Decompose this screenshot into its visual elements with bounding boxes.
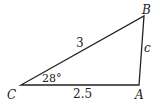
vertex-label-a: A [134,88,144,102]
side-label-cb: 3 [76,36,84,50]
side-label-c: c [144,41,151,55]
side-label-ca: 2.5 [73,87,92,101]
angle-label-c: 28° [42,72,62,85]
vertex-label-b: B [141,3,151,17]
triangle-abc [21,16,144,85]
triangle-diagram: B c 3 28° C 2.5 A [0,0,160,106]
vertex-label-c: C [7,88,16,102]
